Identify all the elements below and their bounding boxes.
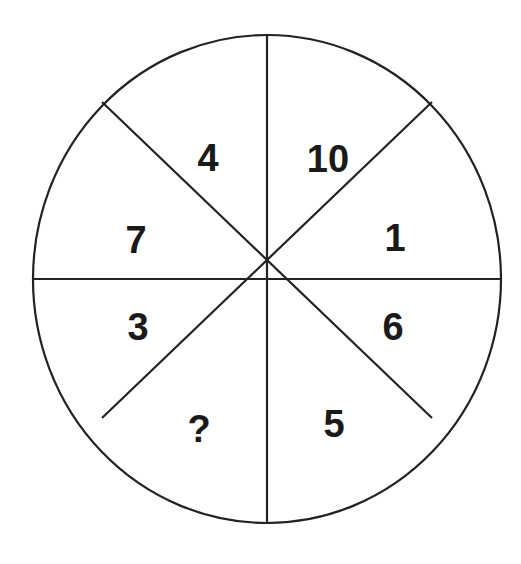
cell-top-left: 4 bbox=[197, 139, 218, 177]
cell-right-upper: 1 bbox=[384, 219, 405, 257]
cell-bottom-right: 5 bbox=[323, 405, 344, 443]
cell-bottom-left-unknown: ? bbox=[187, 410, 210, 448]
wheel-diagram bbox=[0, 0, 521, 564]
cell-top-right: 10 bbox=[307, 140, 349, 178]
cell-left-lower: 3 bbox=[127, 308, 148, 346]
cell-left-upper: 7 bbox=[125, 221, 146, 259]
cell-right-lower: 6 bbox=[382, 308, 403, 346]
